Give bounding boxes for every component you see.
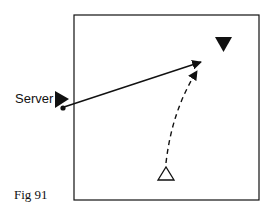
figure-caption: Fig 91	[14, 187, 48, 203]
target-player-triangle-icon	[215, 37, 232, 52]
receiver-player-triangle-icon	[158, 167, 174, 180]
ball-path-arrow	[64, 62, 201, 107]
court-boundary	[74, 15, 259, 200]
server-label: Server	[15, 91, 53, 106]
player-movement-arrow	[166, 71, 197, 163]
